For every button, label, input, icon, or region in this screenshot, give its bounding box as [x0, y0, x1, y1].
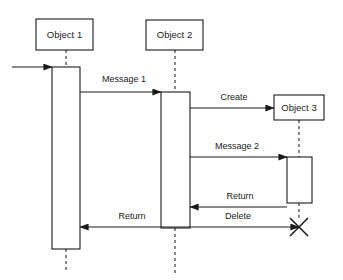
activation-bar-object-1: [52, 67, 80, 249]
message-delete-message[interactable]: Delete: [190, 211, 299, 227]
message-message-2[interactable]: Message 2: [190, 141, 287, 157]
activation-bar-object-2: [161, 92, 190, 228]
object-box-object-3[interactable]: Object 3: [274, 95, 324, 120]
message-create-message[interactable]: Create: [190, 92, 274, 108]
message-label-return-to-object-1: Return: [118, 211, 145, 221]
activation-bar-object-3: [287, 157, 312, 203]
object-box-object-1[interactable]: Object 1: [36, 19, 93, 50]
uml-sequence-diagram: Message 1CreateMessage 2ReturnDeleteRetu…: [0, 0, 343, 280]
message-label-return-from-object-3: Return: [226, 191, 253, 201]
object-label-object-2: Object 2: [157, 29, 192, 40]
object-label-object-3: Object 3: [281, 102, 316, 113]
message-label-delete-message: Delete: [225, 211, 251, 221]
activations-layer: [52, 67, 312, 249]
object-box-object-2[interactable]: Object 2: [146, 20, 203, 50]
message-label-message-2: Message 2: [215, 141, 259, 151]
message-return-from-object-3[interactable]: Return: [190, 191, 287, 207]
message-label-create-message: Create: [220, 92, 247, 102]
object-label-object-1: Object 1: [47, 29, 82, 40]
message-message-1[interactable]: Message 1: [80, 74, 161, 92]
sequence-diagram-canvas: Message 1CreateMessage 2ReturnDeleteRetu…: [0, 0, 343, 280]
message-label-message-1: Message 1: [102, 74, 146, 84]
